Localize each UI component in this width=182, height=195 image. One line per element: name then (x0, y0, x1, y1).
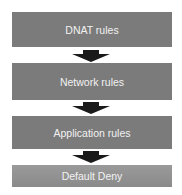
step-label: Default Deny (62, 170, 123, 182)
down-arrow-icon (72, 50, 110, 62)
step-label: Application rules (53, 127, 130, 139)
step-label: DNAT rules (65, 24, 118, 36)
step-label: Network rules (60, 76, 124, 88)
down-arrow-icon (72, 151, 110, 163)
step-application-rules: Application rules (12, 116, 172, 149)
down-arrow-icon (72, 102, 110, 114)
step-network-rules: Network rules (12, 63, 172, 100)
step-default-deny: Default Deny (12, 165, 172, 187)
step-dnat-rules: DNAT rules (12, 12, 172, 47)
